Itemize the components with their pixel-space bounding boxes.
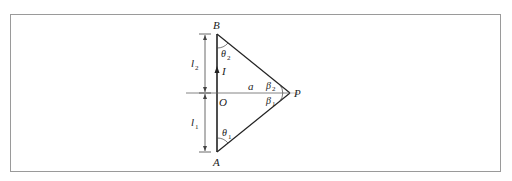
current-arrow-icon	[215, 66, 220, 73]
label-beta1: β	[265, 95, 271, 106]
label-l2: l	[191, 57, 194, 69]
label-b: B	[213, 19, 220, 31]
label-l1: l	[191, 116, 194, 128]
label-beta1-sub: 1	[272, 100, 276, 108]
dim-arrow-icon	[203, 87, 207, 92]
label-l2-sub: 2	[195, 64, 199, 72]
dim-arrow-icon	[203, 146, 207, 151]
label-beta2-sub: 2	[272, 85, 276, 93]
diagram-canvas: B A O P I a l 2 l 1 θ 2 θ 1 β 2 β 1	[0, 0, 512, 181]
label-current: I	[221, 65, 227, 77]
label-theta1-sub: 1	[228, 133, 232, 141]
dim-arrow-icon	[203, 35, 207, 40]
label-beta2: β	[265, 80, 271, 91]
label-theta2: θ	[221, 48, 226, 59]
dim-arrow-icon	[203, 94, 207, 99]
label-p: P	[293, 87, 301, 99]
line-ap	[217, 93, 290, 152]
label-a: A	[212, 156, 220, 168]
label-o: O	[219, 96, 227, 108]
label-theta1: θ	[222, 127, 227, 138]
label-theta2-sub: 2	[227, 54, 231, 62]
label-distance: a	[248, 80, 254, 92]
line-bp	[217, 34, 290, 93]
label-l1-sub: 1	[195, 123, 199, 131]
theta1-arc	[217, 138, 228, 143]
